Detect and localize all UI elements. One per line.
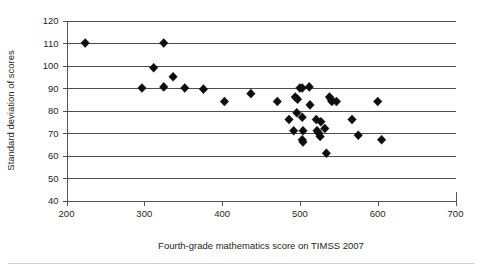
data-point — [199, 85, 208, 94]
y-tick-label: 40 — [48, 195, 59, 206]
data-point — [306, 100, 315, 109]
data-points — [81, 38, 386, 157]
data-point — [138, 83, 147, 92]
data-point — [220, 97, 229, 106]
data-point — [159, 38, 168, 47]
gridlines — [67, 22, 456, 202]
data-point — [285, 115, 294, 124]
data-point — [305, 82, 314, 91]
data-point — [159, 82, 168, 91]
data-point — [169, 72, 178, 81]
x-axis-title: Fourth-grade mathematics score on TIMSS … — [158, 240, 364, 251]
x-tick-label: 500 — [292, 208, 308, 219]
tick-marks — [63, 22, 457, 206]
y-tick-label: 110 — [43, 38, 58, 49]
footer-divider — [8, 263, 474, 264]
data-point — [348, 115, 357, 124]
x-tick-label: 400 — [214, 208, 230, 219]
data-point — [354, 131, 363, 140]
x-tick-label: 300 — [136, 208, 152, 219]
data-point — [273, 97, 282, 106]
x-tick-label: 600 — [370, 208, 386, 219]
data-point — [180, 83, 189, 92]
scatter-plot: 405060708090100110120 200300400500600700… — [0, 0, 482, 273]
y-axis-tick-labels: 405060708090100110120 — [43, 15, 59, 206]
data-point — [81, 38, 90, 47]
y-tick-label: 100 — [43, 60, 59, 71]
y-tick-label: 70 — [48, 128, 59, 139]
y-tick-label: 60 — [48, 150, 59, 161]
x-tick-label: 700 — [448, 208, 464, 219]
y-tick-label: 120 — [43, 15, 59, 26]
data-point — [149, 63, 158, 72]
chart-figure: 405060708090100110120 200300400500600700… — [0, 0, 482, 273]
y-tick-label: 80 — [48, 105, 59, 116]
data-point — [377, 135, 386, 144]
y-axis-title: Standard deviation of scores — [5, 50, 16, 171]
x-tick-label: 200 — [59, 208, 75, 219]
y-tick-label: 50 — [48, 173, 59, 184]
y-tick-label: 90 — [48, 83, 59, 94]
data-point — [373, 97, 382, 106]
data-point — [247, 89, 256, 98]
x-axis-tick-labels: 200300400500600700 — [59, 208, 464, 219]
